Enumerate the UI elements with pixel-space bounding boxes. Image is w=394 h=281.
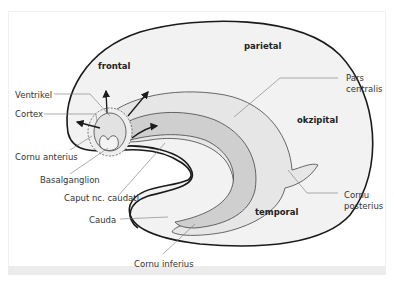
label-pars-centralis-line2: centralis	[346, 84, 382, 94]
basalganglion	[100, 136, 119, 151]
label-pars-centralis-line1: Pars	[346, 73, 364, 83]
label-cornu-posterius-line2: posterius	[344, 201, 383, 211]
region-okzipital: okzipital	[297, 115, 338, 125]
label-cortex: Cortex	[15, 109, 43, 119]
region-frontal: frontal	[98, 61, 131, 71]
label-cornu-anterius: Cornu anterius	[15, 152, 78, 162]
brain-ventricle-diagram	[0, 0, 394, 281]
region-parietal: parietal	[244, 41, 281, 51]
label-basalganglion: Basalganglion	[40, 175, 100, 185]
label-caput-nc-caudati: Caput nc. caudati	[64, 193, 139, 203]
label-ventrikel: Ventrikel	[15, 90, 52, 100]
region-temporal: temporal	[255, 207, 298, 217]
label-cornu-posterius-line1: Cornu	[344, 190, 369, 200]
label-cornu-inferius: Cornu inferius	[134, 259, 194, 269]
label-cauda: Cauda	[89, 215, 116, 225]
